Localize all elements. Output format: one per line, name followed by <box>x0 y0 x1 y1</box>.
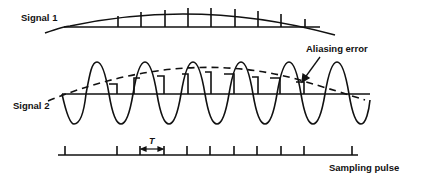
sampling-pulse-graphic <box>58 146 358 155</box>
signal2-sine <box>62 62 370 124</box>
signal1-curve <box>45 14 335 35</box>
signal1-graphic <box>45 8 335 35</box>
aliasing-diagram <box>0 0 422 181</box>
aliasing-error-label: Aliasing error <box>306 43 368 54</box>
sampling-pulse-label: Sampling pulse <box>329 162 399 173</box>
signal2-graphic <box>48 62 370 124</box>
period-arrow <box>141 147 163 151</box>
signal1-label: Signal 1 <box>21 12 57 23</box>
signal2-label: Signal 2 <box>13 100 49 111</box>
aliasing-arrow <box>302 57 320 82</box>
period-label: T <box>149 136 155 146</box>
sample-holds <box>109 72 304 94</box>
